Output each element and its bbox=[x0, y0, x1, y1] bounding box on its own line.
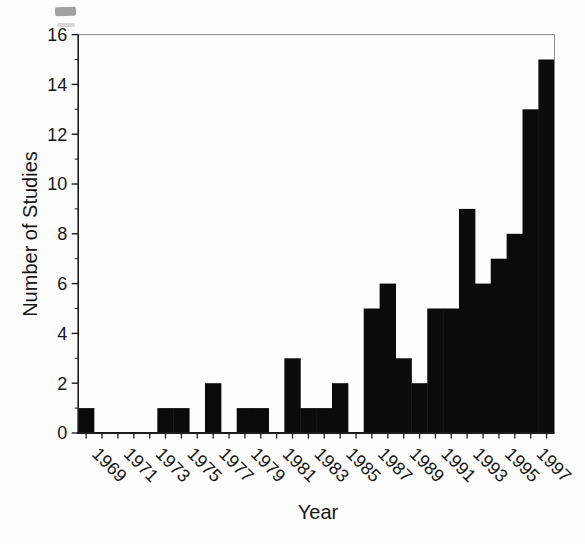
y-axis-title: Number of Studies bbox=[19, 151, 42, 317]
x-tick-label-1973: 1973 bbox=[152, 444, 194, 486]
bar-1973 bbox=[157, 408, 173, 433]
bar-1982 bbox=[300, 408, 316, 433]
y-tick-label-14: 14 bbox=[47, 75, 67, 95]
x-tick-label-1977: 1977 bbox=[215, 444, 257, 486]
bar-1988 bbox=[395, 358, 411, 433]
bar-1978 bbox=[237, 408, 253, 433]
bar-1991 bbox=[443, 309, 459, 434]
bar-1990 bbox=[427, 309, 443, 434]
bar-1968 bbox=[78, 408, 94, 433]
x-tick-label-1997: 1997 bbox=[533, 444, 575, 486]
x-tick-label-1971: 1971 bbox=[120, 444, 162, 486]
figure: 0246810121416196919711973197519771979198… bbox=[0, 0, 585, 544]
x-tick-label-1989: 1989 bbox=[406, 444, 448, 486]
bar-1986 bbox=[364, 309, 380, 434]
x-tick-label-1983: 1983 bbox=[310, 444, 352, 486]
y-tick-label-10: 10 bbox=[47, 174, 67, 194]
x-tick-label-1987: 1987 bbox=[374, 444, 416, 486]
y-tick-label-16: 16 bbox=[47, 25, 67, 45]
bar-1983 bbox=[316, 408, 332, 433]
bar-1992 bbox=[459, 209, 475, 433]
x-tick-label-1969: 1969 bbox=[88, 444, 130, 486]
studies-per-year-bar-chart: 0246810121416196919711973197519771979198… bbox=[0, 0, 585, 544]
y-tick-label-2: 2 bbox=[57, 374, 67, 394]
y-tick-label-6: 6 bbox=[57, 274, 67, 294]
x-tick-label-1981: 1981 bbox=[279, 444, 321, 486]
bar-1984 bbox=[332, 383, 348, 433]
x-tick-label-1979: 1979 bbox=[247, 444, 289, 486]
bar-1993 bbox=[475, 284, 491, 433]
bar-1989 bbox=[411, 383, 427, 433]
y-tick-label-4: 4 bbox=[57, 324, 67, 344]
bar-1981 bbox=[284, 358, 300, 433]
x-tick-label-1995: 1995 bbox=[501, 444, 543, 486]
y-tick-label-8: 8 bbox=[57, 224, 67, 244]
y-tick-label-12: 12 bbox=[47, 125, 67, 145]
bar-1995 bbox=[507, 234, 523, 433]
bar-1976 bbox=[205, 383, 221, 433]
bars-group bbox=[78, 60, 555, 434]
x-axis-group: 1969197119731975197719791981198319851987… bbox=[77, 433, 575, 486]
bar-1987 bbox=[380, 284, 396, 433]
bar-1994 bbox=[491, 259, 507, 433]
x-axis-title: Year bbox=[298, 501, 338, 524]
x-tick-label-1975: 1975 bbox=[183, 444, 225, 486]
bar-1996 bbox=[523, 109, 539, 433]
bar-1997 bbox=[538, 60, 554, 434]
bar-1974 bbox=[173, 408, 189, 433]
x-tick-label-1991: 1991 bbox=[437, 444, 479, 486]
x-tick-label-1993: 1993 bbox=[469, 444, 511, 486]
y-axis-group: 0246810121416 bbox=[47, 25, 78, 443]
x-tick-label-1985: 1985 bbox=[342, 444, 384, 486]
y-tick-label-0: 0 bbox=[57, 423, 67, 443]
bar-1979 bbox=[253, 408, 269, 433]
